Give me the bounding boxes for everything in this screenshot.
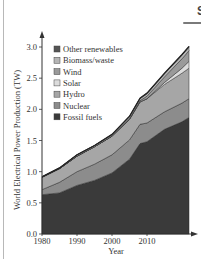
x-tick-label: 1990 xyxy=(69,236,86,246)
y-tick-label: 0.5 xyxy=(26,198,37,208)
chart-legend: Other renewablesBiomass/wasteWindSolarHy… xyxy=(54,44,123,122)
y-tick-label: 2.5 xyxy=(26,73,37,83)
y-tick-label: 1.0 xyxy=(26,167,37,177)
legend-label: Nuclear xyxy=(63,101,90,111)
x-tick-label: 2000 xyxy=(104,236,121,246)
legend-swatch xyxy=(54,57,60,63)
legend-swatch xyxy=(54,114,60,120)
legend-swatch xyxy=(54,103,60,109)
legend-label: Hydro xyxy=(63,89,85,99)
legend-swatch xyxy=(54,80,60,86)
y-tick-label: 3.0 xyxy=(26,42,37,52)
legend-label: Other renewables xyxy=(63,44,123,54)
y-tick-label: 1.5 xyxy=(26,136,37,146)
legend-swatch xyxy=(54,69,60,75)
stacked-area-chart: 0.00.51.01.52.02.53.01980199020002010 Ot… xyxy=(0,0,201,259)
y-axis-title: World Electrical Power Production (TW) xyxy=(12,70,22,210)
legend-label: Biomass/waste xyxy=(63,55,114,65)
legend-swatch xyxy=(54,91,60,97)
legend-label: Solar xyxy=(63,78,81,88)
x-tick-label: 2010 xyxy=(139,236,156,246)
x-axis-title: Year xyxy=(108,246,124,256)
x-tick-label: 1980 xyxy=(34,236,51,246)
legend-swatch xyxy=(54,46,60,52)
y-tick-label: 2.0 xyxy=(26,104,37,114)
y-axis-arrow-icon xyxy=(40,31,45,38)
legend-label: Fossil fuels xyxy=(63,112,102,122)
legend-label: Wind xyxy=(63,67,82,77)
x-axis-arrow-icon xyxy=(191,232,198,237)
